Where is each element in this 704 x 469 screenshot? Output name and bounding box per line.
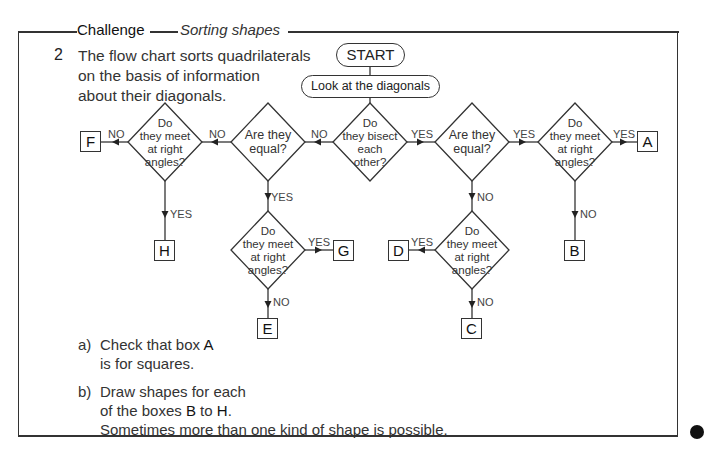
task-b: b)Draw shapes for each of the boxes B to… (78, 382, 448, 439)
frame-top-rule-right (288, 31, 679, 33)
edge-label-lower-right-no: NO (477, 296, 494, 308)
outcome-box-b: B (564, 240, 585, 261)
outcome-box-g: G (333, 240, 354, 261)
decision-lower-right-text: Do they meet at right angles? (447, 225, 498, 277)
outcome-box-e: E (257, 318, 278, 339)
decision-bisect-text: Do they bisect each other? (343, 117, 398, 169)
edge-label-bisect-no: NO (311, 128, 328, 140)
look-at-diagonals-step: Look at the diagonals (301, 75, 440, 98)
decision-equal-left-text: Are they equal? (245, 128, 292, 156)
edge-label-far-left-no: NO (108, 128, 125, 140)
edge-label-lower-right-yes: YES (411, 236, 433, 248)
edge-label-equal-right-no: NO (477, 191, 494, 203)
page-margin-dot (690, 425, 704, 439)
edge-label-far-left-yes: YES (170, 208, 192, 220)
edge-label-lower-left-no: NO (273, 296, 290, 308)
section-label: Challenge (77, 21, 145, 39)
edge-label-lower-left-yes: YES (308, 236, 330, 248)
decision-far-left-text: Do they meet at right angles? (140, 117, 191, 169)
frame-top-rule-mid (150, 31, 178, 33)
task-b-letter: b) (78, 382, 100, 401)
outcome-box-d: D (388, 240, 409, 261)
edge-label-far-right-no: NO (580, 208, 597, 220)
intro-line: on the basis of information (78, 66, 311, 86)
edge-label-equal-right-yes: YES (513, 128, 535, 140)
edge-label-equal-left-yes: YES (271, 191, 293, 203)
decision-equal-right-text: Are they equal? (449, 128, 496, 156)
edge-label-bisect-yes: YES (411, 128, 433, 140)
decision-far-right-text: Do they meet at right angles? (550, 117, 601, 169)
question-intro: The flow chart sorts quadrilaterals on t… (78, 46, 311, 106)
outcome-box-f: F (80, 131, 101, 152)
task-a: a)Check that box A is for squares. (78, 335, 213, 373)
outcome-box-c: C (461, 318, 482, 339)
intro-line: The flow chart sorts quadrilaterals (78, 46, 311, 66)
frame-top-rule-left (18, 31, 78, 33)
intro-line: about their diagonals. (78, 86, 311, 106)
outcome-box-h: H (154, 240, 175, 261)
edge-label-equal-left-no: NO (209, 128, 226, 140)
outcome-box-a: A (637, 131, 658, 152)
start-terminal: START (336, 43, 405, 67)
edge-label-far-right-yes: YES (613, 128, 635, 140)
task-a-letter: a) (78, 335, 100, 354)
question-number: 2 (54, 46, 63, 64)
page-title: Sorting shapes (180, 21, 280, 39)
decision-lower-left-text: Do they meet at right angles? (243, 225, 294, 277)
